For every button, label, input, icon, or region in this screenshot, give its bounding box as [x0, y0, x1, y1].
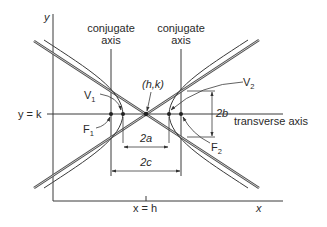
- conjugate-axis-left-label-line2: axis: [101, 34, 121, 46]
- conjugate-axis-right-label-line1: conjugate: [157, 22, 205, 34]
- x-eq-h-label: x = h: [133, 202, 157, 214]
- center-leader: [147, 92, 151, 111]
- vertex-1-label: V1: [84, 89, 96, 104]
- y-axis-label: y: [43, 11, 51, 23]
- focus-2-label: F2: [211, 141, 222, 156]
- vertex-2-point: [167, 112, 171, 116]
- transverse-axis-label: transverse axis: [234, 115, 308, 127]
- f2-leader: [183, 117, 210, 143]
- f1-leader: [96, 117, 110, 128]
- y-eq-k-label: y = k: [18, 108, 42, 120]
- vertex-1-point: [121, 112, 125, 116]
- vertex-2-label: V2: [243, 76, 255, 91]
- focus-2-point: [179, 112, 183, 116]
- focus-1-label: F1: [83, 123, 94, 138]
- x-axis-label: x: [255, 202, 262, 214]
- center-point: [144, 112, 148, 116]
- dim-2b-label: 2b: [215, 107, 228, 119]
- conjugate-axis-right-label-line2: axis: [171, 34, 191, 46]
- hyperbola-diagram: y x y = k x = h conjugate axis conjugate…: [0, 0, 327, 227]
- focus-1-point: [109, 112, 113, 116]
- center-label: (h,k): [142, 78, 164, 90]
- v2-leader: [171, 82, 243, 110]
- conjugate-axis-left-label-line1: conjugate: [87, 22, 135, 34]
- dim-2c-label: 2c: [139, 156, 152, 168]
- dim-2a-label: 2a: [139, 132, 152, 144]
